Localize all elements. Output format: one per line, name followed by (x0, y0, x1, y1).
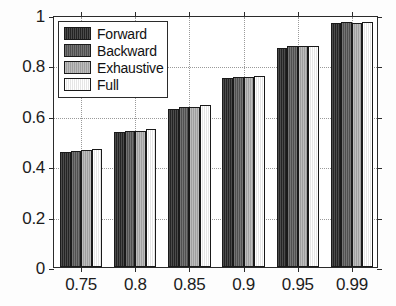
legend-label: Backward (97, 44, 157, 58)
bar (308, 46, 319, 268)
bar-texture (61, 153, 70, 266)
gridline-y (54, 168, 377, 169)
bar (287, 46, 298, 267)
bar-texture (288, 47, 297, 266)
legend-swatch-texture (65, 62, 90, 73)
bar (362, 22, 373, 267)
legend-item-full: Full (64, 77, 162, 92)
legend-label: Forward (97, 27, 147, 41)
bar-texture (147, 130, 156, 266)
y-tick-label: 0.8 (22, 57, 45, 77)
x-tick-label: 0.8 (124, 275, 147, 295)
legend-label: Full (97, 78, 119, 92)
x-tick-mark (135, 267, 136, 272)
bar (60, 152, 71, 267)
bar (146, 129, 157, 267)
x-tick-mark (352, 12, 353, 17)
legend-item-exhaustive: Exhaustive (64, 60, 162, 75)
legend-swatch-backward (64, 44, 91, 57)
legend-swatch-texture (65, 79, 90, 90)
legend-label: Exhaustive (97, 61, 163, 75)
x-tick-label: 0.9 (232, 275, 255, 295)
bar (233, 77, 244, 267)
bar-texture (136, 132, 145, 266)
bar (331, 23, 342, 267)
bar-texture (332, 24, 341, 266)
y-tick-label: 0.6 (22, 108, 45, 128)
bar (222, 78, 233, 267)
x-tick-mark (189, 267, 190, 272)
x-tick-mark (352, 267, 353, 272)
y-tick-mark (377, 269, 382, 270)
chart-legend: ForwardBackwardExhaustiveFull (58, 21, 168, 98)
y-tick-mark (377, 219, 382, 220)
bar-texture (72, 152, 81, 266)
gridline-y (54, 219, 377, 220)
bar (341, 22, 352, 267)
gridline-y (54, 118, 377, 119)
bar (92, 149, 103, 267)
legend-swatch-texture (65, 45, 90, 56)
bar-texture (255, 77, 264, 266)
bar (244, 77, 255, 267)
bar-texture (363, 23, 372, 266)
bar (71, 151, 82, 267)
x-tick-mark (81, 267, 82, 272)
bar (254, 76, 265, 267)
x-tick-label: 0.99 (336, 275, 368, 295)
bar-texture (180, 108, 189, 266)
bar (189, 107, 200, 267)
y-tick-mark (377, 168, 382, 169)
legend-swatch-texture (65, 28, 90, 39)
x-tick-label: 0.85 (173, 275, 205, 295)
x-tick-mark (298, 267, 299, 272)
bar-texture (245, 78, 254, 266)
y-tick-mark (49, 219, 54, 220)
x-tick-mark (81, 12, 82, 17)
bar-texture (309, 47, 318, 267)
bar-texture (342, 23, 351, 266)
bar (114, 132, 125, 267)
bar (135, 131, 146, 267)
x-tick-mark (135, 12, 136, 17)
y-tick-mark (377, 118, 382, 119)
bar-texture (278, 49, 287, 266)
bar (81, 150, 92, 267)
bar-texture (115, 133, 124, 266)
bar (200, 105, 211, 267)
bar-texture (126, 132, 135, 266)
legend-swatch-full (64, 78, 91, 91)
bar (277, 48, 288, 267)
bar-chart-figure: 00.20.40.60.81 0.750.80.850.90.950.99 Fo… (0, 0, 396, 306)
y-tick-label: 0.4 (22, 158, 45, 178)
bar-texture (82, 151, 91, 266)
y-tick-label: 0 (36, 259, 45, 279)
x-tick-mark (244, 12, 245, 17)
bar-texture (353, 24, 362, 266)
bar (298, 46, 309, 268)
legend-item-backward: Backward (64, 43, 162, 58)
bar-texture (93, 150, 102, 266)
x-tick-mark (189, 12, 190, 17)
y-tick-mark (49, 118, 54, 119)
x-tick-label: 0.95 (282, 275, 314, 295)
bar-texture (299, 47, 308, 267)
y-tick-mark (377, 67, 382, 68)
bar-texture (223, 79, 232, 266)
bar (168, 109, 179, 268)
bar-texture (190, 108, 199, 266)
legend-swatch-exhaustive (64, 61, 91, 74)
y-tick-mark (49, 17, 54, 18)
bar (179, 107, 190, 267)
x-tick-mark (244, 267, 245, 272)
x-tick-mark (298, 12, 299, 17)
y-tick-label: 1 (36, 7, 45, 27)
bar-texture (234, 78, 243, 266)
bar (352, 23, 363, 267)
y-tick-label: 0.2 (22, 209, 45, 229)
x-tick-label: 0.75 (65, 275, 97, 295)
bar-texture (169, 110, 178, 267)
bar-texture (201, 106, 210, 266)
legend-item-forward: Forward (64, 26, 162, 41)
bar (125, 131, 136, 267)
